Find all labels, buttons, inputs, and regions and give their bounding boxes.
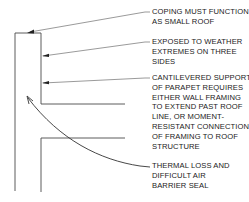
annotation-thermal-line-2: DIFFICULT AIR <box>152 171 230 181</box>
leader-coping <box>30 12 150 32</box>
annotation-cantilever-line-3: EITHER WALL FRAMING <box>152 93 249 103</box>
annotation-exposure-line-1: EXPOSED TO WEATHER <box>152 37 242 47</box>
annotation-cantilever-line-1: CANTILEVERED SUPPORT <box>152 73 249 83</box>
thermal-flow-arrow <box>28 98 150 167</box>
arrowhead-cantilever-icon <box>42 81 49 84</box>
annotation-coping: COPING MUST FUNCTION AS SMALL ROOF <box>152 7 249 27</box>
leader-exposure <box>43 42 150 56</box>
arrowhead-exposure-icon <box>42 54 49 57</box>
annotation-thermal: THERMAL LOSS AND DIFFICULT AIR BARRIER S… <box>152 161 230 190</box>
annotation-thermal-line-1: THERMAL LOSS AND <box>152 161 230 171</box>
annotation-coping-line-1: COPING MUST FUNCTION <box>152 7 249 17</box>
arrowhead-coping-icon <box>27 30 34 34</box>
annotation-thermal-line-3: BARRIER SEAL <box>152 181 230 191</box>
annotation-exposure-line-2: EXTREMES ON THREE <box>152 47 242 57</box>
annotation-cantilever-line-4: TO EXTEND PAST ROOF <box>152 102 249 112</box>
annotation-exposure-line-3: SIDES <box>152 57 242 67</box>
parapet-diagram: COPING MUST FUNCTION AS SMALL ROOF EXPOS… <box>0 0 249 202</box>
annotation-coping-line-2: AS SMALL ROOF <box>152 17 249 27</box>
annotation-cantilever-line-5: LINE, OR MOMENT- <box>152 112 249 122</box>
leader-cantilever <box>43 78 150 83</box>
annotation-cantilever-line-6: RESISTANT CONNECTION <box>152 122 249 132</box>
parapet-inner-face <box>41 33 125 104</box>
annotation-cantilever-line-8: STRUCTURE <box>152 142 249 152</box>
annotation-cantilever-line-2: OF PARAPET REQUIRES <box>152 83 249 93</box>
annotation-cantilever-line-7: OF FRAMING TO ROOF <box>152 132 249 142</box>
annotation-exposure: EXPOSED TO WEATHER EXTREMES ON THREE SID… <box>152 37 242 66</box>
roof-lower-line <box>41 138 125 192</box>
annotation-cantilever: CANTILEVERED SUPPORT OF PARAPET REQUIRES… <box>152 73 249 151</box>
